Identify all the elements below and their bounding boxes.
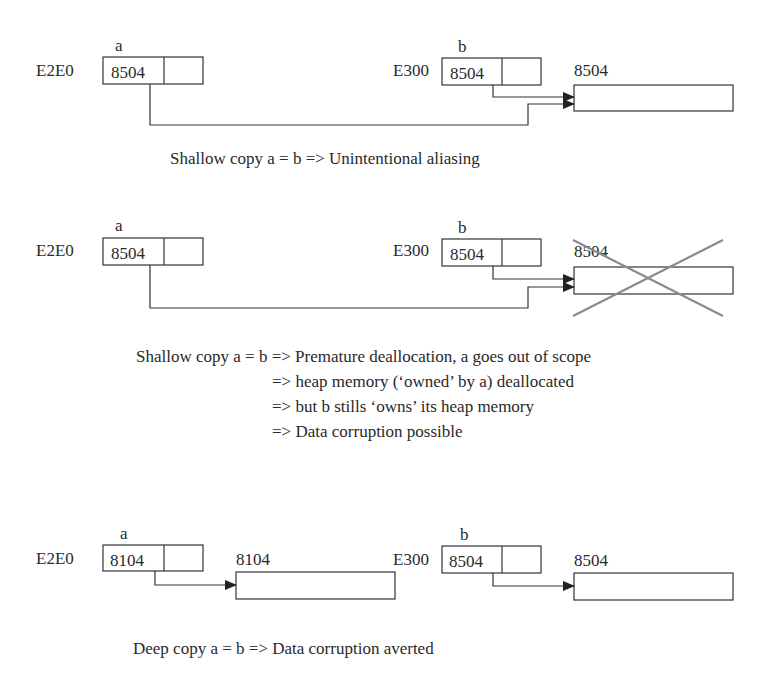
diagram-deep-copy: a E2E0 8104 8104 b E300 8504 8504 Deep c… xyxy=(36,524,733,658)
heap-block-a-label: 8104 xyxy=(236,550,271,569)
pointer-arrow-b xyxy=(493,85,574,97)
caption-line-3: => but b stills ‘owns’ its heap memory xyxy=(272,397,535,416)
pointer-arrow-a xyxy=(150,84,574,125)
caption: Shallow copy a = b => Unintentional alia… xyxy=(170,149,480,168)
heap-block-label: 8504 xyxy=(574,242,609,261)
var-a-pointer-value: 8104 xyxy=(110,551,145,570)
heap-block-b-label: 8504 xyxy=(574,551,609,570)
caption-line-1: Shallow copy a = b => Premature dealloca… xyxy=(136,347,591,366)
var-a-address: E2E0 xyxy=(36,241,74,260)
var-b-pointer-value: 8504 xyxy=(449,552,484,571)
pointer-arrow-a xyxy=(155,571,236,585)
caption-line-2: => heap memory (‘owned’ by a) deallocate… xyxy=(272,372,575,391)
var-a-address: E2E0 xyxy=(36,61,74,80)
copy-semantics-figure: a E2E0 8504 b E300 8504 8504 Shallow cop… xyxy=(0,0,782,691)
var-b-pointer-value: 8504 xyxy=(450,64,485,83)
var-b-name: b xyxy=(460,525,469,544)
diagram-shallow-aliasing: a E2E0 8504 b E300 8504 8504 Shallow cop… xyxy=(36,36,733,168)
var-a-address: E2E0 xyxy=(36,549,74,568)
var-b-name: b xyxy=(458,218,467,237)
heap-block-a xyxy=(236,572,395,599)
pointer-arrow-b xyxy=(493,573,574,586)
heap-block-label: 8504 xyxy=(574,61,609,80)
var-a-name: a xyxy=(115,216,123,235)
var-a-pointer-value: 8504 xyxy=(111,244,146,263)
var-b-name: b xyxy=(458,37,467,56)
var-b-address: E300 xyxy=(393,61,429,80)
heap-block-b xyxy=(574,573,733,600)
pointer-arrow-b xyxy=(493,266,574,279)
heap-block xyxy=(574,85,733,111)
caption: Deep copy a = b => Data corruption avert… xyxy=(133,639,434,658)
caption-line-4: => Data corruption possible xyxy=(272,422,463,441)
var-b-address: E300 xyxy=(393,241,429,260)
var-a-pointer-value: 8504 xyxy=(111,63,146,82)
var-a-name: a xyxy=(115,36,123,55)
diagram-shallow-premature-deallocation: a E2E0 8504 b E300 8504 8504 Shallow cop… xyxy=(36,216,733,441)
pointer-arrow-a xyxy=(150,265,574,308)
var-a-name: a xyxy=(120,524,128,543)
var-b-pointer-value: 8504 xyxy=(450,245,485,264)
var-b-address: E300 xyxy=(393,550,429,569)
